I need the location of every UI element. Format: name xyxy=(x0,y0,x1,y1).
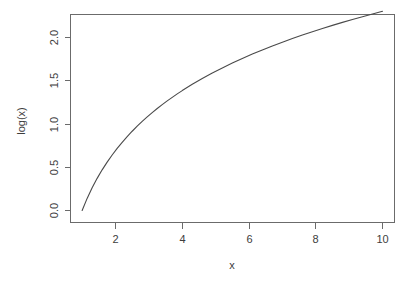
log-function-chart: 2 4 6 8 10 0.0 0.5 1.0 1.5 2.0 x log(x) xyxy=(0,0,411,283)
y-tick-label-0: 0.0 xyxy=(48,203,60,218)
r-plot-canvas: 2 4 6 8 10 0.0 0.5 1.0 1.5 2.0 x log(x) xyxy=(0,0,411,283)
x-tick-label-1: 4 xyxy=(179,233,185,245)
y-tick-label-2: 1.0 xyxy=(48,117,60,132)
y-tick-label-3: 1.5 xyxy=(48,73,60,88)
x-axis-title: x xyxy=(229,259,235,271)
x-tick-label-2: 6 xyxy=(246,233,252,245)
log-curve xyxy=(82,11,382,210)
x-tick-label-0: 2 xyxy=(112,233,118,245)
x-axis-ticks xyxy=(116,223,383,229)
y-tick-label-4: 2.0 xyxy=(48,30,60,45)
y-tick-label-1: 0.5 xyxy=(48,160,60,175)
y-axis-ticks xyxy=(65,38,71,211)
plot-frame-box xyxy=(71,15,395,223)
x-tick-label-3: 8 xyxy=(312,233,318,245)
x-tick-label-4: 10 xyxy=(376,233,388,245)
x-axis-tick-labels: 2 4 6 8 10 xyxy=(112,233,388,245)
y-axis-tick-labels: 0.0 0.5 1.0 1.5 2.0 xyxy=(48,30,60,218)
y-axis-title: log(x) xyxy=(15,107,27,135)
